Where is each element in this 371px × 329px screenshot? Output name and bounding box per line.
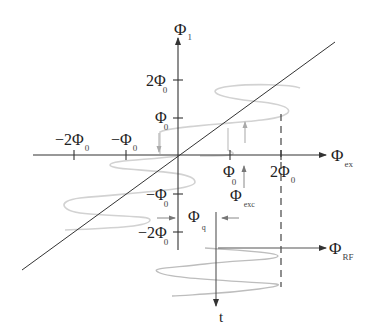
x-tick-label-pos2: 2Φ0 [270,163,296,185]
lower-response-curve [64,156,195,230]
x-tick-label-neg2: −2Φ0 [55,131,90,153]
y-tick-label-pos1: Φ0 [155,109,169,132]
y-tick-label-neg2: −2Φ0 [138,224,169,247]
upper-response-curve [160,85,300,156]
rf-drive-curve [156,248,278,296]
flux-diagram: Φ1 Φex ΦRF t −2Φ0 −Φ0 Φ0 2Φ0 2Φ0 Φ0 −Φ0 … [0,0,371,329]
x-tick-label-pos1: Φ0 [223,163,237,187]
x-axis-label: Φex [331,146,353,169]
y-tick-label-pos2: 2Φ0 [146,72,168,95]
y-axis-label: Φ1 [174,20,192,42]
time-axis-label: t [219,309,224,325]
phi-q-label: Φq [188,208,206,232]
rf-axis-label: ΦRF [329,239,353,262]
phi-exc-label: Φexc [230,187,255,209]
y-tick-label-neg1: −Φ0 [146,186,169,209]
x-tick-label-neg1: −Φ0 [111,131,138,153]
